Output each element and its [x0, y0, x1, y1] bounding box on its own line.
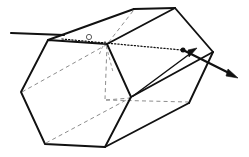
secondary-ray-group: [133, 48, 197, 96]
hidden-edge-interior-to-front: [106, 98, 130, 100]
figure-root: [0, 0, 249, 157]
internal-ray-dotted: [62, 39, 182, 50]
hidden-edge-lower-diagonal: [46, 98, 130, 143]
front-face-outline: [21, 40, 131, 147]
edge-frontbottom-to-backbottom: [105, 103, 189, 147]
secondary-ray-line: [133, 53, 191, 96]
back-top-edge: [134, 8, 175, 9]
hidden-edge-interior-to-right: [106, 100, 188, 102]
hidden-edge-left-diagonal: [22, 45, 106, 92]
back-right-upper-edge: [175, 8, 213, 52]
incident-ray: [11, 33, 64, 35]
hidden-edges-group: [22, 11, 188, 143]
hidden-edge-back-top-diagonal: [108, 11, 133, 43]
prism-solid-edges: [21, 8, 213, 147]
edge-midtop-to-backapex: [107, 8, 175, 44]
exit-ray-arrowhead-icon: [226, 69, 238, 78]
hidden-edge-vertical-interior: [105, 45, 107, 99]
incident-ray-group: [11, 33, 64, 35]
prism-refraction-diagram: [0, 0, 249, 157]
entry-point-circle: [86, 34, 91, 39]
